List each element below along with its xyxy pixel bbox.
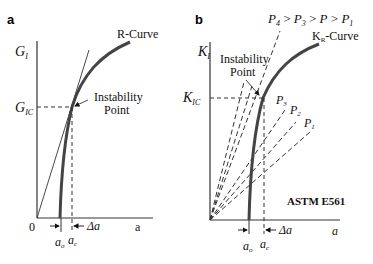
panel-a-label: a [7,12,15,27]
origin-label: 0 [29,220,35,234]
r-curve [60,42,130,218]
panel-b: b KI KIC Instability Point P4 > P3 > P >… [182,11,359,254]
tangent-line [37,50,89,218]
ac-label: ac [68,233,78,248]
load-order-label: P4 > P3 > P > P1 [267,11,353,28]
gic-label: GIC [15,100,34,117]
instability-arrow [75,100,88,106]
astm-label: ASTM E561 [287,195,345,207]
fracture-diagram: a GI GIC R-Curve Instability Point 0 a Δ… [0,0,373,264]
gi-label: GI [15,44,28,61]
panel-b-label: b [195,12,203,27]
instability-label-1: Instability [220,52,269,66]
instability-label-1: Instability [94,90,143,104]
x-axis-label: a [332,224,338,238]
load-line-p3 [210,110,285,220]
ac-label: ac [260,237,270,252]
p3-label: P3 [275,93,287,108]
kr-curve [249,44,319,220]
panel-a: a GI GIC R-Curve Instability Point 0 a Δ… [7,12,158,250]
ki-label: KI [197,44,210,61]
p2-label: P2 [289,103,301,118]
load-line-p2 [210,122,296,220]
instability-arrow [246,80,259,95]
r-curve-label: R-Curve [117,27,158,41]
instability-label-2: Point [230,65,256,79]
a0-label: ao [243,239,253,254]
a0-label: ao [55,235,65,250]
p1-label: P1 [303,116,315,131]
kic-label: KIC [182,90,201,107]
load-line-1 [210,82,244,220]
delta-a-label: Δa [278,223,292,237]
load-line-2 [210,86,252,220]
x-axis-label: a [135,220,141,234]
delta-a-label: Δa [86,219,100,233]
kr-curve-label: KR-Curve [312,29,359,44]
instability-label-2: Point [104,103,130,117]
